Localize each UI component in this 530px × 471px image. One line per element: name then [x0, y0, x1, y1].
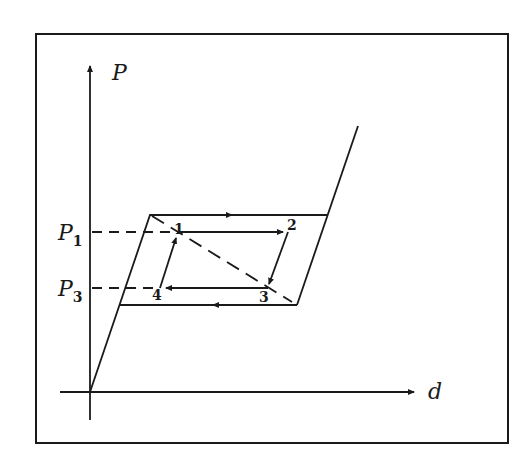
svg-text:P3: P3 [57, 276, 83, 305]
outer-envelope [90, 126, 358, 392]
outer-bottom-arrow-icon [212, 302, 219, 308]
point-label-3: 3 [259, 289, 269, 305]
diagram-canvas: P d P1 P3 1 2 3 4 [0, 0, 530, 471]
level-label-p1: P1 [57, 220, 83, 249]
p-axis-label: P [111, 60, 128, 85]
outer-top-arrow-icon [226, 212, 233, 218]
svg-text:P1: P1 [57, 220, 83, 249]
point-label-2: 2 [287, 217, 297, 233]
level-label-p3: P3 [57, 276, 83, 305]
inner-loop [160, 232, 288, 288]
dashed-diagonal [152, 216, 292, 302]
point-label-4: 4 [152, 287, 162, 303]
d-axis-label: d [428, 379, 442, 404]
point-label-1: 1 [174, 221, 184, 237]
